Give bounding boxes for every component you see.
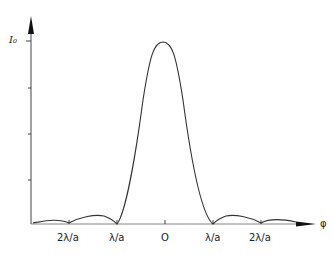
- y-axis-arrow-icon: [28, 16, 34, 34]
- x-tick-label: 2λ/a: [249, 232, 271, 243]
- x-tick-label: O: [161, 232, 169, 243]
- x-tick-label: 2λ/a: [57, 232, 79, 243]
- diffraction-plot: [0, 0, 334, 254]
- x-axis-arrow-icon: [296, 222, 316, 227]
- x-tick-label: λ/a: [205, 232, 220, 243]
- intensity-curve: [33, 42, 296, 224]
- y-axis-label: I₀: [9, 34, 17, 45]
- x-tick-label: λ/a: [109, 232, 124, 243]
- x-axis-label: φ: [320, 218, 327, 229]
